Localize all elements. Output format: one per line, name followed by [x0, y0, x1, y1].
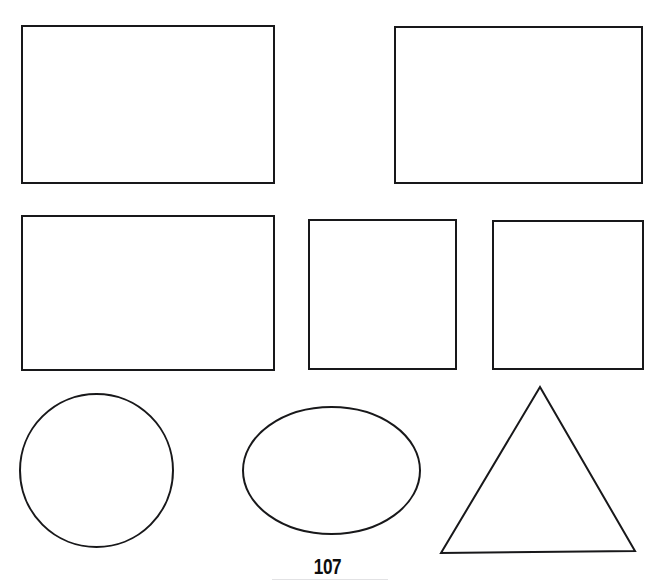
worksheet-page: 107: [0, 0, 655, 585]
page-number: 107: [72, 556, 583, 578]
square-middle: [309, 220, 456, 369]
ellipse: [243, 407, 420, 534]
rectangle-wide-row2: [22, 216, 274, 370]
shape-row-3: [20, 387, 635, 553]
shape-row-2: [22, 216, 643, 370]
shape-row-1: [22, 26, 642, 183]
square-right: [493, 221, 643, 369]
shapes-svg: [0, 0, 655, 585]
circle: [20, 394, 173, 547]
footer-divider: [272, 579, 388, 580]
shapes-figure-area: [0, 0, 655, 585]
triangle: [441, 387, 635, 553]
rectangle-wide-left: [22, 26, 274, 183]
page-footer: 107: [0, 552, 655, 585]
rectangle-wide-right: [395, 27, 642, 183]
